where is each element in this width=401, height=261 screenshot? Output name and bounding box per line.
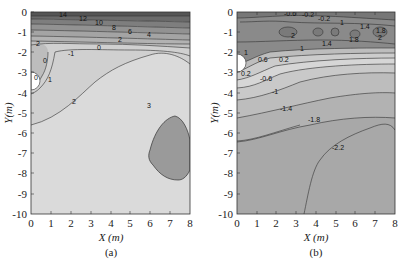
contour-label: 1.8: [376, 27, 386, 34]
x-tick-label: 4: [108, 217, 114, 229]
contour-label: 2: [72, 98, 76, 105]
y-tick-label: -10: [218, 208, 233, 220]
y-tick-label: -6: [224, 127, 234, 139]
y-tick-label: -7: [18, 147, 28, 159]
contour-label: 0: [34, 74, 38, 81]
x-tick-label: 6: [352, 217, 358, 229]
contour-label: 12: [79, 15, 87, 22]
y-tick-label: 0: [22, 6, 28, 18]
contour-label: 2: [378, 34, 382, 41]
y-tick-label: -2: [224, 46, 233, 58]
x-tick-label: 1: [48, 217, 54, 229]
contour-label: -1: [68, 50, 74, 57]
x-tick-label: 0: [234, 217, 240, 229]
x-tick-label: 3: [293, 217, 299, 229]
x-tick-label: 6: [147, 217, 153, 229]
x-tick-label: 5: [127, 217, 133, 229]
y-tick-label: -4: [224, 87, 234, 99]
y-tick-label: -5: [18, 107, 28, 119]
contour-label: 0.2: [279, 56, 289, 63]
contour-label: 1.4: [360, 23, 370, 30]
y-tick-label: -10: [12, 208, 27, 220]
contour-label: 0: [97, 44, 101, 51]
x-tick-label: 8: [392, 217, 398, 229]
contour-label: 0.2: [241, 70, 251, 77]
contour-label: -0.6: [260, 75, 272, 82]
contour-label: 2: [36, 40, 40, 47]
contour-label: -1.4: [280, 105, 292, 112]
chart-panel-a: 14 12 10 8 6 4 2 0 -1 2 0 0 1 2 3 0 -1 -…: [0, 0, 200, 261]
contour-label: 6: [128, 28, 132, 35]
y-tick-label: -9: [18, 188, 28, 200]
y-tick-label: -6: [18, 127, 28, 139]
contour-label: 1: [300, 45, 304, 52]
x-tick-label: 1: [254, 217, 260, 229]
contour-label: 2: [118, 36, 122, 43]
y-tick-label: 0: [228, 6, 234, 18]
y-tick-label: -5: [224, 107, 234, 119]
contour-label: 3: [147, 102, 151, 109]
y-tick-label: -3: [18, 66, 28, 78]
contour-label: -1.8: [308, 116, 320, 123]
y-axis-label: Y(m): [2, 102, 15, 124]
x-tick-label: 8: [187, 217, 193, 229]
contour-label: 10: [95, 19, 103, 26]
contour-label: -0.6: [284, 10, 296, 17]
x-axis-label: X (m): [303, 231, 329, 244]
y-tick-label: -7: [224, 147, 234, 159]
x-tick-label: 7: [372, 217, 378, 229]
contour-label: 1: [244, 49, 248, 56]
x-tick-label: 5: [333, 217, 339, 229]
y-tick-label: -1: [224, 26, 233, 38]
y-tick-label: -2: [18, 46, 27, 58]
x-tick-label: 7: [167, 217, 173, 229]
y-tick-label: -9: [224, 188, 234, 200]
contour-label: 4: [147, 31, 151, 38]
contour-label: -1: [272, 88, 278, 95]
contour-label: 2: [291, 32, 295, 39]
y-tick-label: -8: [224, 167, 234, 179]
contour-label: 8: [112, 24, 116, 31]
panel-label: (b): [310, 246, 323, 259]
y-axis-label: Y(m): [208, 102, 221, 124]
y-tick-label: -4: [18, 87, 28, 99]
contour-label: -2.2: [332, 144, 344, 151]
contour-label: 1.4: [322, 40, 332, 47]
x-tick-label: 4: [313, 217, 319, 229]
contour-label: 0: [43, 57, 47, 64]
y-tick-label: -8: [18, 167, 28, 179]
contour-label: -0.2: [318, 15, 330, 22]
chart-panel-b: -0.6 -0.2 -0.2 1 1.4 1.8 2 1.8 2 1.4 1 1…: [200, 0, 401, 261]
contour-label: 0.6: [258, 56, 268, 63]
x-tick-label: 0: [28, 217, 34, 229]
y-tick-label: -3: [224, 66, 234, 78]
contour-plot-b: -0.6 -0.2 -0.2 1 1.4 1.8 2 1.8 2 1.4 1 1…: [200, 0, 401, 261]
contour-label: 1: [340, 19, 344, 26]
contour-plot-a: 14 12 10 8 6 4 2 0 -1 2 0 0 1 2 3 0 -1 -…: [0, 0, 200, 261]
contour-label: 1.8: [349, 36, 359, 43]
y-tick-label: -1: [18, 26, 27, 38]
x-tick-label: 2: [68, 217, 74, 229]
x-tick-label: 2: [273, 217, 279, 229]
x-axis-label: X (m): [98, 231, 124, 244]
contour-label: 1: [48, 76, 52, 83]
panel-label: (a): [105, 246, 118, 259]
x-tick-label: 3: [88, 217, 94, 229]
